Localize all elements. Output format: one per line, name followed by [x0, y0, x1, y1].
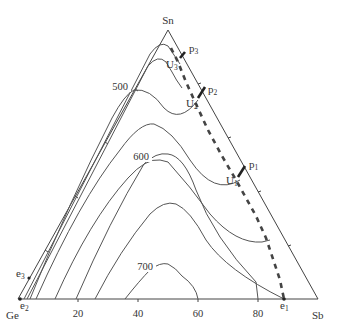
- label-p1: p1: [249, 158, 259, 172]
- axis-tick-40: 40: [133, 308, 144, 319]
- edge-sn-sb: [168, 30, 318, 299]
- axis-tick-20: 20: [73, 308, 84, 319]
- isotherm-outer-2: [27, 59, 182, 299]
- vertex-label-ge: Ge: [6, 309, 19, 321]
- peritectic-tie-lines: [180, 52, 245, 177]
- label-p2: p2: [208, 83, 218, 97]
- point-markers: [18, 276, 286, 300]
- tie-u1-p1: [238, 166, 245, 177]
- tie-u2-p2: [198, 87, 205, 98]
- isotherm-label-600: 600: [133, 151, 149, 162]
- label-e3: e3: [16, 267, 25, 281]
- label-e2: e2: [20, 299, 29, 313]
- vertex-label-sn: Sn: [162, 14, 174, 26]
- label-p3: p3: [189, 42, 199, 56]
- axis-tick-80: 80: [253, 308, 264, 319]
- label-u2: U2: [186, 97, 198, 111]
- isotherm-label-500: 500: [112, 81, 128, 92]
- axis-tick-60: 60: [193, 308, 204, 319]
- isotherm-550: [55, 160, 270, 299]
- label-u1: U1: [226, 174, 238, 188]
- e3-marker: [27, 276, 30, 279]
- ternary-phase-diagram: Sn Ge Sb 20 40 60 80 500 600 700 p3 p2 p…: [0, 0, 341, 333]
- isotherm-650: [95, 203, 284, 299]
- isotherm-label-700: 700: [137, 261, 153, 272]
- label-e1: e1: [280, 299, 289, 313]
- vertex-label-sb: Sb: [312, 309, 324, 321]
